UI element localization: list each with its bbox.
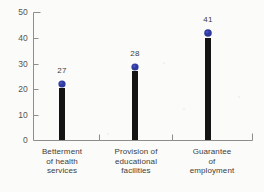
chart-figure: 50 40 30 20 10 0 27 28 41 Betterment of …	[0, 0, 264, 192]
category-line: services	[26, 166, 98, 176]
category-line: employment	[173, 166, 251, 176]
x-axis-line	[34, 134, 253, 141]
category-line: facilities	[100, 166, 172, 176]
value-label-guarantee-of-employment: 41	[196, 15, 220, 24]
x-axis-category-label-betterment-of-health-services: Betterment of health services	[26, 147, 98, 176]
data-point-highlight-28	[133, 65, 136, 68]
value-label-provision-of-educational-facilities: 28	[123, 49, 147, 58]
value-label-betterment-of-health-services: 27	[50, 66, 74, 75]
bar-provision-of-educational-facilities	[132, 71, 138, 140]
y-axis-tick-label-20: 20	[6, 85, 28, 94]
y-axis-tick-label-0: 0	[6, 136, 28, 145]
category-line: Betterment	[26, 147, 98, 157]
y-axis-tick-label-40: 40	[6, 34, 28, 43]
bar-betterment-of-health-services	[59, 88, 65, 140]
category-line: of health	[26, 157, 98, 167]
x-axis-category-label-guarantee-of-employment: Guarantee of employment	[173, 147, 251, 176]
x-axis-category-label-provision-of-educational-facilities: Provision of educational facilities	[100, 147, 172, 176]
category-line: educational	[100, 157, 172, 167]
data-point-highlight-27	[60, 82, 63, 85]
y-axis-tick-label-50: 50	[6, 8, 28, 17]
y-axis-line	[34, 13, 41, 141]
category-line: of	[173, 157, 251, 167]
y-axis-tick-label-30: 30	[6, 60, 28, 69]
y-axis-tick-label-10: 10	[6, 111, 28, 120]
bar-guarantee-of-employment	[205, 38, 211, 140]
category-line: Guarantee	[173, 147, 251, 157]
data-point-highlight-41	[206, 30, 209, 33]
category-line: Provision of	[100, 147, 172, 157]
